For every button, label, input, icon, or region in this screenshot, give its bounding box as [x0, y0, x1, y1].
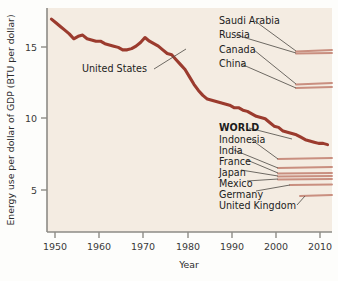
label-japan: Japan: [218, 167, 246, 178]
label-united-kingdom: United Kingdom: [219, 200, 296, 211]
chart-canvas: 15 10 5 1950 1960 1970 1980 1990 2000 20…: [0, 0, 338, 281]
series-russia-line: [296, 53, 332, 54]
energy-intensity-chart: 15 10 5 1950 1960 1970 1980 1990 2000 20…: [0, 0, 338, 281]
y-tick-label-5: 5: [31, 185, 37, 196]
x-tick-label-1980: 1980: [176, 241, 200, 252]
x-axis-title: Year: [178, 259, 199, 270]
x-tick-label-2010: 2010: [308, 241, 332, 252]
label-world: WORLD: [219, 122, 259, 133]
series-indonesia-line: [278, 158, 332, 159]
label-mexico: Mexico: [219, 178, 253, 189]
series-china-line: [296, 87, 332, 88]
series-japan-line: [278, 176, 332, 177]
y-tick-label-10: 10: [25, 113, 37, 124]
series-mexico-line: [278, 179, 332, 180]
y-tick-label-15: 15: [25, 42, 37, 53]
series-india-line: [278, 167, 332, 168]
x-tick-label-1990: 1990: [220, 241, 244, 252]
x-tick-label-1970: 1970: [131, 241, 155, 252]
label-indonesia: Indonesia: [219, 134, 265, 145]
y-axis-title: Energy use per dollar of GDP (BTU per do…: [5, 14, 16, 225]
series-germany-line: [290, 185, 332, 186]
plot-area-background: [47, 8, 332, 232]
label-saudi-arabia: Saudi Arabia: [219, 15, 280, 26]
label-france: France: [219, 156, 251, 167]
label-india: India: [219, 145, 243, 156]
x-tick-label-1950: 1950: [43, 241, 67, 252]
label-canada: Canada: [219, 44, 256, 55]
x-tick-label-1960: 1960: [87, 241, 111, 252]
label-china: China: [219, 58, 246, 69]
label-germany: Germany: [219, 189, 263, 200]
label-united-states: United States: [82, 63, 147, 74]
x-tick-label-2000: 2000: [264, 241, 288, 252]
label-russia: Russia: [219, 29, 250, 40]
series-france-line: [278, 173, 332, 174]
